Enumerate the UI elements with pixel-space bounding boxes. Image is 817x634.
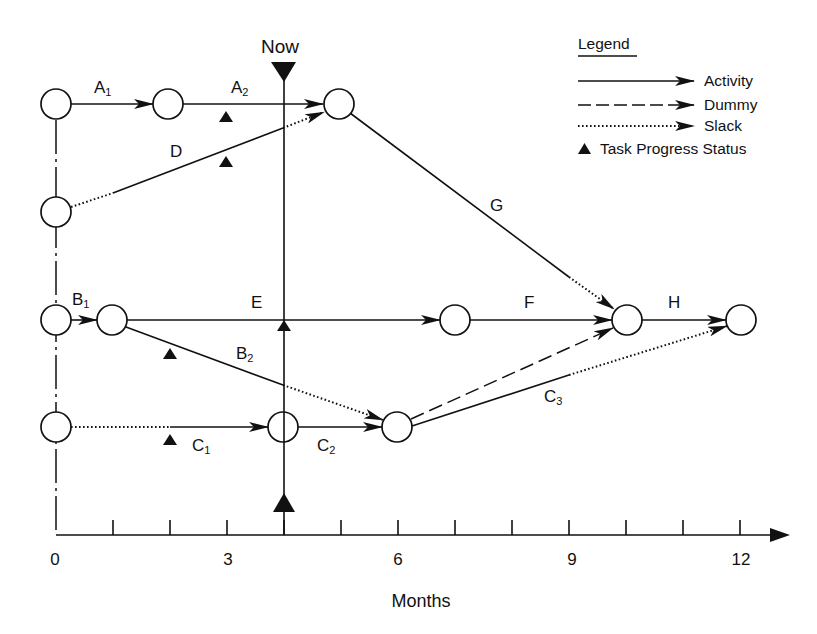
activity-label: C1 [192, 436, 210, 456]
activity-c3-slack [569, 326, 727, 375]
tick-label: 0 [50, 550, 59, 569]
event-node [726, 305, 756, 335]
now-marker-up-icon [273, 493, 295, 512]
activity-label: C3 [544, 387, 562, 407]
now-marker-down-icon [271, 62, 296, 82]
event-node [41, 89, 71, 119]
activity-label: D [170, 142, 182, 161]
legend: Legend Activity Dummy Slack Task Progres… [578, 35, 758, 157]
activity-d-slack-start [71, 193, 113, 207]
legend-heading: Legend [578, 35, 630, 52]
event-node [41, 305, 71, 335]
tick-label: 12 [732, 550, 751, 569]
activity-b2-arrow [126, 327, 283, 385]
event-node [382, 412, 412, 442]
activity-label: B1 [72, 290, 89, 310]
legend-label: Slack [704, 117, 742, 134]
activity-d-arrow [113, 128, 283, 193]
activity-label: B2 [236, 344, 253, 364]
event-node [440, 305, 470, 335]
event-node [268, 412, 298, 442]
progress-triangle-icon [163, 348, 177, 359]
dummy-arrow [411, 328, 613, 419]
event-node [41, 412, 71, 442]
progress-triangle-icon [219, 156, 233, 167]
now-label: Now [261, 36, 299, 57]
time-axis: 0 3 6 9 12 Months [50, 520, 790, 611]
activity-label: H [668, 293, 680, 312]
event-node [153, 89, 183, 119]
legend-triangle-icon [578, 143, 591, 154]
progress-triangle-icon [219, 111, 233, 122]
activity-label: A2 [231, 78, 248, 98]
activity-g-slack [569, 277, 614, 309]
activity-b2-slack [283, 385, 383, 420]
axis-arrow-icon [770, 528, 790, 542]
network-diagram: 0 3 6 9 12 Months Now [0, 0, 817, 634]
now-status-line: Now [261, 36, 299, 535]
tick-label: 6 [393, 550, 402, 569]
activity-label: E [251, 293, 262, 312]
event-node [612, 305, 642, 335]
activity-g-arrow [350, 113, 569, 277]
tick-label: 3 [223, 550, 232, 569]
activity-label: G [490, 196, 503, 215]
tick-label: 9 [567, 550, 576, 569]
activity-label: F [524, 293, 534, 312]
event-node [324, 89, 354, 119]
event-node [41, 197, 71, 227]
activity-label: A1 [94, 78, 111, 98]
legend-label: Activity [704, 72, 753, 89]
axis-ticks [113, 520, 740, 535]
legend-label: Task Progress Status [600, 140, 747, 157]
activity-label: C2 [317, 436, 335, 456]
activity-d-slack-end [283, 112, 324, 128]
progress-triangle-icon [163, 434, 177, 445]
legend-label: Dummy [704, 96, 758, 113]
event-node [97, 305, 127, 335]
axis-title: Months [391, 591, 450, 611]
progress-triangle-icon [277, 320, 291, 331]
